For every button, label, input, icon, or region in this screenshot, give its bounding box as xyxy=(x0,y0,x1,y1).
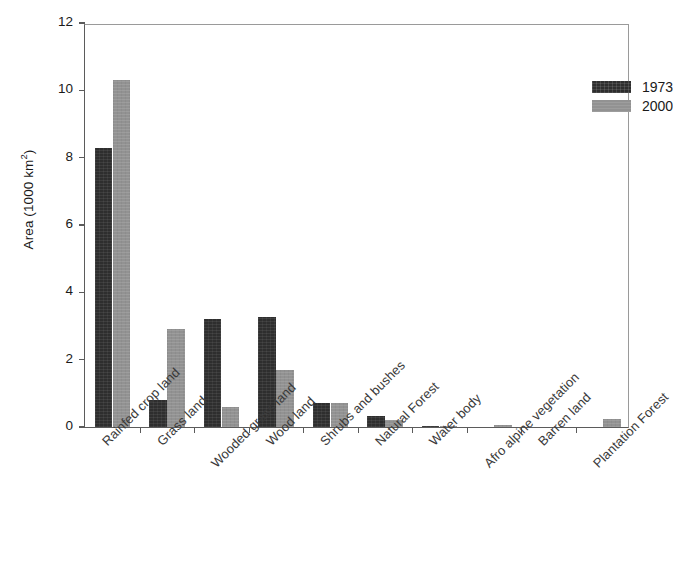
x-tick-mark xyxy=(140,427,141,433)
legend-item-1973: 1973 xyxy=(592,77,673,96)
y-tick-mark xyxy=(79,359,85,360)
bar-wooded-grass-land-2000 xyxy=(222,407,240,427)
y-tick-mark xyxy=(79,292,85,293)
x-axis-labels: Rainfed crop landGrass landWooded grass … xyxy=(0,434,646,583)
y-tick-label: 4 xyxy=(33,283,73,298)
y-tick-label: 6 xyxy=(33,216,73,231)
y-tick-label: 2 xyxy=(33,351,73,366)
y-axis-title-text: Area (1000 km xyxy=(21,160,36,250)
y-tick-mark xyxy=(79,224,85,225)
plot-area: 024681012 1973 2000 xyxy=(84,24,629,428)
y-tick-label: 8 xyxy=(33,149,73,164)
x-tick-mark xyxy=(412,427,413,433)
bar-rainfed-crop-land-2000 xyxy=(113,80,131,427)
bar-plantation-forest-2000 xyxy=(603,419,621,427)
x-tick-mark xyxy=(303,427,304,433)
bar-natural-forest-1973 xyxy=(367,416,385,427)
bar-afro-alpine-vegetation-2000 xyxy=(494,425,512,427)
chart-legend: 1973 2000 xyxy=(592,77,673,115)
legend-item-2000: 2000 xyxy=(592,96,673,115)
x-tick-mark xyxy=(576,427,577,433)
y-tick-mark xyxy=(79,426,85,427)
legend-swatch-1973 xyxy=(592,81,631,93)
y-tick-mark xyxy=(79,22,85,23)
y-axis-title-exponent: 2 xyxy=(18,154,29,159)
bar-wooded-grass-land-1973 xyxy=(204,319,222,427)
y-tick-label: 0 xyxy=(33,418,73,433)
x-tick-mark xyxy=(358,427,359,433)
y-axis-title: Area (1000 km2) xyxy=(21,100,36,300)
legend-swatch-2000 xyxy=(592,100,631,112)
y-tick-mark xyxy=(79,90,85,91)
bar-rainfed-crop-land-1973 xyxy=(95,148,113,427)
legend-label-1973: 1973 xyxy=(642,79,673,95)
y-tick-label: 12 xyxy=(33,14,73,29)
x-tick-mark xyxy=(467,427,468,433)
legend-label-2000: 2000 xyxy=(642,98,673,114)
y-tick-mark xyxy=(79,157,85,158)
y-tick-label: 10 xyxy=(33,81,73,96)
x-tick-mark xyxy=(194,427,195,433)
